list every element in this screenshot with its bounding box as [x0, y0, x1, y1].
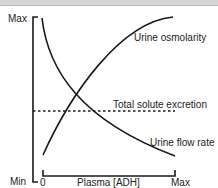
- urine-osmolarity-label: Urine osmolarity: [134, 32, 206, 43]
- x-axis: [43, 170, 175, 176]
- x-axis-title: Plasma [ADH]: [77, 177, 140, 188]
- y-max-label: Max: [8, 13, 27, 24]
- adh-diagram: Max Min 0 Plasma [ADH] Max Urine osmolar…: [0, 0, 218, 188]
- total-solute-excretion-label: Total solute excretion: [113, 99, 207, 110]
- y-min-label: Min: [10, 176, 26, 187]
- y-axis: [33, 17, 38, 182]
- x-start-label: 0: [40, 177, 46, 188]
- x-end-label: Max: [171, 177, 190, 188]
- urine-flow-rate-label: Urine flow rate: [150, 137, 215, 148]
